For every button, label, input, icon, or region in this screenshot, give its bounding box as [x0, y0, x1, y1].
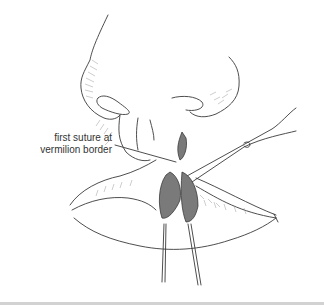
- annotation-first-suture: first suture at vermilion border: [40, 132, 112, 156]
- annotation-line-1: first suture at: [40, 132, 112, 144]
- annotation-line-2: vermilion border: [40, 144, 112, 156]
